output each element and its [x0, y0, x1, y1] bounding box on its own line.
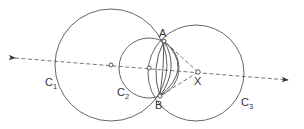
label-c1: C1: [45, 76, 57, 91]
label-x: X: [194, 75, 202, 87]
point-a: [162, 39, 166, 43]
tangent-line-x-a: [164, 41, 198, 72]
centre-c2-point: [147, 66, 151, 70]
label-b: B: [155, 99, 162, 111]
label-a: A: [159, 27, 167, 39]
diagram-svg: A B X C1 C2 C3: [0, 0, 304, 129]
diagram-canvas: A B X C1 C2 C3: [0, 0, 304, 129]
point-x: [196, 70, 200, 74]
arc-through-a-b-3: [160, 41, 171, 96]
centre-c1-point: [109, 63, 113, 67]
label-c3: C3: [241, 96, 253, 111]
point-b: [158, 94, 162, 98]
